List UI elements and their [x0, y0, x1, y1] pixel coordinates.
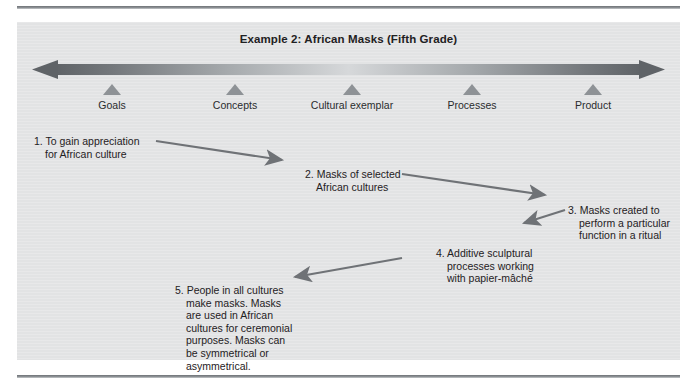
stage-label: Concepts: [175, 99, 295, 111]
connector-4-to-5: [295, 258, 402, 277]
sequence-note-2: 2. Masks of selected African cultures: [305, 168, 461, 193]
stage-label: Processes: [412, 99, 532, 111]
sequence-note-1: 1. To gain appreciation for African cult…: [34, 135, 205, 160]
stage-marker-cultural-exemplar: Cultural exemplar: [292, 84, 412, 111]
triangle-up-icon: [463, 84, 481, 95]
arrow-left-icon: [32, 60, 58, 79]
stage-marker-goals: Goals: [52, 84, 172, 111]
stage-label: Cultural exemplar: [292, 99, 412, 111]
continuum-arrow: [32, 58, 665, 82]
stage-label: Goals: [52, 99, 172, 111]
figure-title: Example 2: African Masks (Fifth Grade): [17, 33, 680, 45]
triangle-up-icon: [226, 84, 244, 95]
triangle-up-icon: [343, 84, 361, 95]
sequence-note-4: 4. Additive sculptural processes working…: [436, 247, 592, 285]
sequence-note-3: 3. Masks created to perform a particular…: [568, 204, 697, 242]
connector-3-to-4: [524, 210, 565, 223]
stage-marker-concepts: Concepts: [175, 84, 295, 111]
triangle-up-icon: [103, 84, 121, 95]
triangle-up-icon: [584, 84, 602, 95]
stage-marker-product: Product: [533, 84, 653, 111]
page-rule-bottom: [17, 375, 680, 378]
sequence-note-5: 5. People in all cultures make masks. Ma…: [175, 284, 331, 372]
figure-panel: Example 2: African Masks (Fifth Grade) G…: [17, 22, 680, 360]
arrow-right-icon: [639, 60, 665, 79]
stage-marker-processes: Processes: [412, 84, 532, 111]
page-rule-top: [17, 6, 680, 9]
stage-label: Product: [533, 99, 653, 111]
